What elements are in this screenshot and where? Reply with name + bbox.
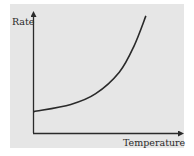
x-axis-label: Temperature [123,137,186,148]
rate-curve [34,16,146,111]
rate-temperature-chart: Rate Temperature [0,0,194,156]
y-axis-label: Rate [12,16,35,27]
